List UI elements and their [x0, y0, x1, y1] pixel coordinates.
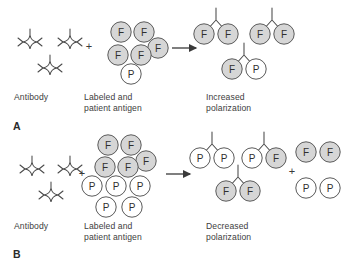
caption-result: Increased polarization	[206, 92, 251, 113]
panel-a-captions: Antibody Labeled and patient antigen Inc…	[0, 92, 347, 122]
svg-text:F: F	[125, 162, 131, 173]
svg-text:P: P	[137, 181, 144, 192]
caption-antigen: Labeled and patient antigen	[84, 221, 142, 242]
svg-text:F: F	[303, 147, 309, 158]
svg-text:F: F	[327, 147, 333, 158]
svg-text:F: F	[223, 186, 229, 197]
caption-antibody: Antibody	[14, 221, 48, 232]
svg-text:P: P	[221, 153, 228, 164]
svg-text:P: P	[129, 202, 136, 213]
svg-text:F: F	[155, 43, 161, 54]
svg-text:F: F	[281, 29, 287, 40]
panel-b-captions: Antibody Labeled and patient antigen Dec…	[0, 221, 347, 251]
svg-text:F: F	[229, 64, 235, 75]
antigen-labeled: F	[121, 135, 141, 155]
antigen-patient: P	[82, 176, 102, 196]
antigen-patient: P	[130, 176, 150, 196]
antibody-antigen-complex: F F	[216, 165, 260, 201]
svg-text:F: F	[105, 140, 111, 151]
plus-sign-reactants: +	[79, 167, 85, 179]
antibody-icon	[39, 182, 63, 202]
svg-text:F: F	[138, 50, 144, 61]
svg-text:P: P	[197, 153, 204, 164]
panel-label-b: B	[13, 248, 21, 260]
svg-text:F: F	[225, 29, 231, 40]
fluorescence-polarization-figure: + F F F	[0, 0, 347, 269]
svg-text:P: P	[253, 64, 260, 75]
svg-text:F: F	[273, 153, 279, 164]
caption-antigen: Labeled and patient antigen	[84, 92, 142, 113]
svg-text:F: F	[143, 156, 149, 167]
antigen-labeled: F	[134, 22, 154, 42]
svg-text:F: F	[141, 27, 147, 38]
antigen-labeled: F	[95, 157, 115, 177]
complex-group: F F F F F	[194, 8, 294, 79]
svg-text:P: P	[128, 69, 135, 80]
antigen-patient: P	[106, 176, 126, 196]
plus-sign-products: +	[289, 165, 295, 177]
antibody-icon	[18, 29, 42, 49]
caption-antibody: Antibody	[14, 92, 48, 103]
antibody-antigen-complex: F F	[194, 8, 238, 44]
panel-b: + F F F F	[0, 131, 347, 269]
antigen-patient: P	[296, 178, 316, 198]
svg-text:F: F	[118, 27, 124, 38]
antigen-labeled: F	[111, 22, 131, 42]
panel-b-diagram: + F F F F	[0, 131, 347, 223]
antibody-icon	[38, 55, 62, 75]
svg-text:F: F	[102, 162, 108, 173]
svg-text:F: F	[128, 140, 134, 151]
svg-text:P: P	[249, 153, 256, 164]
svg-text:P: P	[113, 181, 120, 192]
antigen-pool-group: F F F F F	[82, 135, 156, 217]
antigen-labeled: F	[118, 157, 138, 177]
antibody-icon	[20, 156, 44, 176]
antigen-patient: P	[96, 197, 116, 217]
antibody-antigen-complex: F F	[250, 8, 294, 44]
antibody-antigen-complex: P F	[242, 132, 286, 168]
plus-sign-reactants: +	[86, 40, 92, 52]
antigen-labeled: F	[108, 45, 128, 65]
antigen-labeled: F	[131, 45, 151, 65]
complex-group: P P P F F	[190, 132, 286, 201]
svg-text:P: P	[89, 181, 96, 192]
panel-a: + F F F	[0, 0, 347, 135]
antigen-patient: P	[121, 64, 141, 84]
antigen-patient: P	[320, 178, 340, 198]
svg-text:F: F	[201, 29, 207, 40]
caption-result: Decreased polarization	[206, 221, 251, 242]
antigen-pool-group: F F F F F	[108, 22, 168, 84]
svg-text:F: F	[247, 186, 253, 197]
antibody-antigen-complex: F P	[222, 43, 266, 79]
panel-a-diagram: + F F F	[0, 0, 347, 92]
free-antigen-group: F F P P	[296, 142, 340, 198]
antibody-free-group	[18, 29, 82, 75]
svg-text:P: P	[327, 183, 334, 194]
svg-text:P: P	[103, 202, 110, 213]
svg-text:F: F	[115, 50, 121, 61]
antibody-free-group	[20, 156, 82, 202]
antigen-labeled: F	[98, 135, 118, 155]
antigen-labeled: F	[296, 142, 316, 162]
antibody-icon	[58, 29, 82, 49]
antigen-labeled: F	[136, 151, 156, 171]
svg-text:P: P	[303, 183, 310, 194]
antigen-labeled: F	[320, 142, 340, 162]
antibody-antigen-complex: P P	[190, 132, 234, 168]
antigen-patient: P	[122, 197, 142, 217]
svg-text:F: F	[257, 29, 263, 40]
